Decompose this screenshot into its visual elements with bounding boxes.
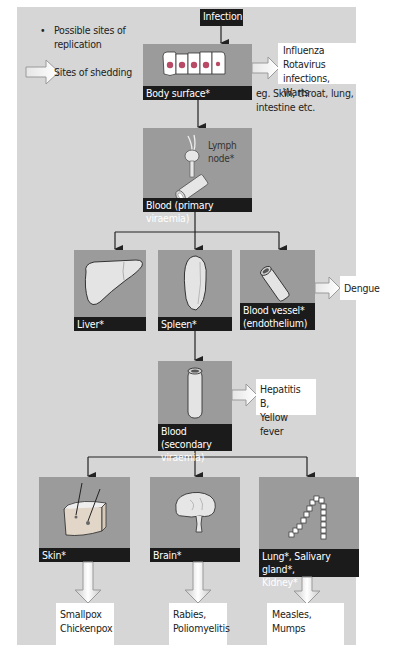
body-surface-examples-line2: intestine etc.	[256, 100, 315, 114]
skin-label: Skin*	[39, 548, 130, 562]
shedding-item: Yellow fever	[260, 410, 312, 438]
shedding-arrow-down-icon	[183, 562, 213, 604]
blood-vessel-label-line1: Blood vessel*	[243, 304, 312, 317]
lymph-node-annotation-line1: Lymph	[208, 139, 237, 152]
body-surface-shedding-box: Influenza Rotavirus infections, Warts	[278, 43, 368, 84]
secondary-label-line2: viraemia)	[161, 451, 229, 464]
spleen-label: Spleen*	[158, 317, 232, 331]
lung-alveoli-icon	[285, 490, 331, 542]
shedding-item: Rabies,	[173, 607, 223, 621]
blood-vessel-icon	[255, 262, 295, 306]
skin-icon	[58, 481, 114, 539]
shedding-item: Influenza	[283, 43, 363, 57]
lung-salivary-kidney-label: Lung*, Salivary gland*, Kidney*	[259, 549, 359, 577]
lung-label-line1: Lung*, Salivary gland*,	[262, 550, 356, 576]
shedding-arrow-icon	[252, 56, 280, 80]
shedding-item: Measles, Mumps	[272, 607, 339, 635]
brain-icon	[170, 490, 220, 538]
shedding-item: Poliomyelitis	[173, 621, 223, 635]
secondary-label-line1: Blood (secondary	[161, 425, 229, 451]
shedding-item: Hepatitis B,	[260, 382, 312, 410]
primary-viraemia-label: Blood (primary viraemia)	[143, 198, 252, 212]
shedding-item: Rotavirus infections,	[283, 57, 363, 85]
blood-vessel-label: Blood vessel* (endothelium)	[240, 303, 315, 330]
blood-vessel-label-line2: (endothelium)	[243, 317, 312, 330]
hepatitis-yellow-fever-box: Hepatitis B, Yellow fever	[256, 379, 316, 415]
rabies-poliomyelitis-box: Rabies, Poliomyelitis	[169, 603, 227, 648]
brain-label: Brain*	[150, 548, 240, 562]
shedding-item: Smallpox	[60, 607, 110, 621]
measles-mumps-box: Measles, Mumps	[267, 603, 344, 645]
shedding-arrow-down-icon	[73, 562, 103, 604]
spleen-icon	[182, 254, 210, 314]
shedding-item: Chickenpox	[60, 621, 110, 635]
shedding-arrow-icon	[315, 276, 341, 300]
liver-label: Liver*	[74, 317, 146, 331]
shedding-arrow-down-icon	[292, 577, 322, 605]
body-surface-examples-line1: eg. Skin, throat, lung,	[256, 86, 354, 100]
body-surface-label: Body surface*	[143, 86, 252, 100]
smallpox-chickenpox-box: Smallpox Chickenpox	[56, 603, 114, 648]
lymph-node-annotation-line2: node*	[208, 152, 234, 165]
epithelial-cells-icon	[160, 50, 230, 80]
shedding-arrow-icon	[232, 383, 258, 409]
blood-vessel-upright-icon	[185, 366, 205, 422]
secondary-viraemia-label: Blood (secondary viraemia)	[158, 424, 232, 451]
liver-icon	[80, 258, 144, 310]
dengue-box: Dengue	[340, 276, 379, 300]
